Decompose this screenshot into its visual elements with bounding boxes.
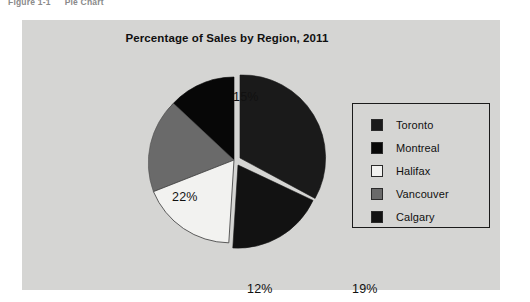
figure-caption: Figure 1-1Pie Chart xyxy=(8,0,104,7)
figure-caption-number: Figure 1-1 xyxy=(8,0,51,7)
legend-label-vancouver: Vancouver xyxy=(396,188,449,200)
pie-chart: 15% 32% 22% 12% 19% xyxy=(130,48,340,263)
legend-swatch-toronto xyxy=(371,119,383,131)
legend-swatch-montreal xyxy=(371,142,383,154)
legend-label-calgary: Calgary xyxy=(396,211,435,223)
chart-title: Percentage of Sales by Region, 2011 xyxy=(82,32,372,44)
pie-chart-svg xyxy=(130,48,340,263)
figure-caption-text: Pie Chart xyxy=(65,0,104,7)
pie-label-halifax: 12% xyxy=(247,282,273,296)
legend-swatch-vancouver xyxy=(371,188,383,200)
figure-root: Figure 1-1Pie Chart Percentage of Sales … xyxy=(0,0,530,302)
legend-swatch-halifax xyxy=(371,165,383,177)
chart-legend: Toronto Montreal Halifax Vancouver Calga xyxy=(352,103,490,228)
legend-item-montreal: Montreal xyxy=(371,137,483,158)
chart-panel: Percentage of Sales by Region, 2011 15% … xyxy=(22,20,500,290)
legend-list: Toronto Montreal Halifax Vancouver Calga xyxy=(371,114,483,229)
legend-item-halifax: Halifax xyxy=(371,160,483,181)
legend-label-montreal: Montreal xyxy=(396,142,440,154)
pie-label-calgary: 19% xyxy=(352,282,378,296)
legend-item-calgary: Calgary xyxy=(371,206,483,227)
legend-label-halifax: Halifax xyxy=(396,165,430,177)
pie-label-vancouver: 22% xyxy=(172,190,198,204)
legend-item-toronto: Toronto xyxy=(371,114,483,135)
legend-label-toronto: Toronto xyxy=(396,119,433,131)
legend-item-vancouver: Vancouver xyxy=(371,183,483,204)
pie-label-montreal: 15% xyxy=(233,90,259,104)
legend-swatch-calgary xyxy=(371,211,383,223)
